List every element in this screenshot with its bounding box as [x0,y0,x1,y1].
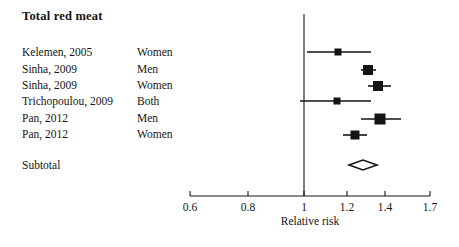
point-estimate-marker-0 [335,49,342,56]
point-estimate-marker-2 [373,81,383,91]
point-estimate-marker-1 [363,65,373,75]
point-estimate-marker-3 [334,98,341,105]
xtick-label-3: 1.2 [340,202,354,214]
xtick-label-1: 0.8 [241,202,255,214]
xtick-label-0: 0.6 [183,202,197,214]
forest-plot: Total red meat Kelemen, 2005 Women Sinha… [0,0,459,247]
x-axis-title: Relative risk [281,216,339,228]
xtick-label-4: 1.4 [378,202,392,214]
xtick-label-2: 1 [301,202,307,214]
xtick-label-5: 1.7 [423,202,437,214]
summary-diamond [349,160,377,170]
point-estimate-marker-5 [351,131,360,140]
point-estimate-marker-4 [375,114,386,125]
plot-graphics [190,14,430,196]
